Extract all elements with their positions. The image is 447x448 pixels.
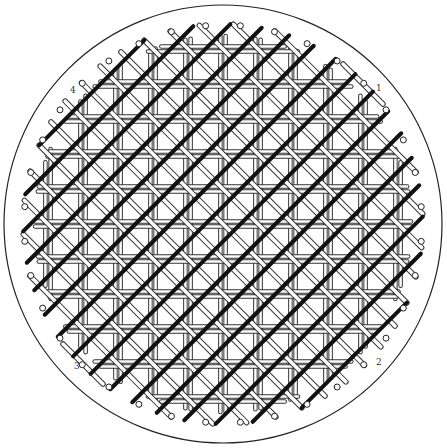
peg: [203, 23, 209, 29]
peg: [79, 362, 85, 368]
weaving-diagram: 1 2 3 4: [0, 0, 447, 448]
corner-label-2: 2: [376, 357, 382, 367]
weaving-diagram-canvas: 1 2 3 4: [0, 0, 447, 448]
peg: [106, 384, 112, 390]
diagonal-down-strand-core: [65, 101, 346, 382]
peg: [106, 58, 112, 64]
peg: [383, 107, 389, 113]
peg: [28, 273, 34, 279]
corner-label-3: 3: [74, 361, 80, 371]
corner-label-1: 1: [376, 83, 382, 93]
peg: [304, 401, 310, 407]
peg: [136, 401, 142, 407]
peg: [237, 23, 243, 29]
peg: [418, 204, 424, 210]
peg: [79, 80, 85, 86]
peg: [361, 80, 367, 86]
peg: [400, 137, 406, 143]
peg: [412, 169, 418, 175]
peg: [28, 169, 34, 175]
peg: [136, 41, 142, 47]
peg: [272, 29, 278, 35]
peg: [168, 413, 174, 419]
peg: [22, 238, 28, 244]
peg: [40, 137, 46, 143]
peg: [418, 238, 424, 244]
peg: [57, 107, 63, 113]
diagonal-down-strand-core: [100, 66, 381, 347]
corner-label-4: 4: [70, 85, 76, 95]
peg: [412, 273, 418, 279]
peg: [334, 58, 340, 64]
peg: [237, 419, 243, 425]
peg: [400, 305, 406, 311]
diagonal-down-strand-core: [82, 83, 365, 366]
peg: [22, 204, 28, 210]
peg: [168, 29, 174, 35]
peg: [203, 419, 209, 425]
peg: [304, 41, 310, 47]
peg: [334, 384, 340, 390]
peg: [272, 413, 278, 419]
peg: [383, 335, 389, 341]
peg: [57, 335, 63, 341]
peg: [361, 362, 367, 368]
peg: [40, 305, 46, 311]
